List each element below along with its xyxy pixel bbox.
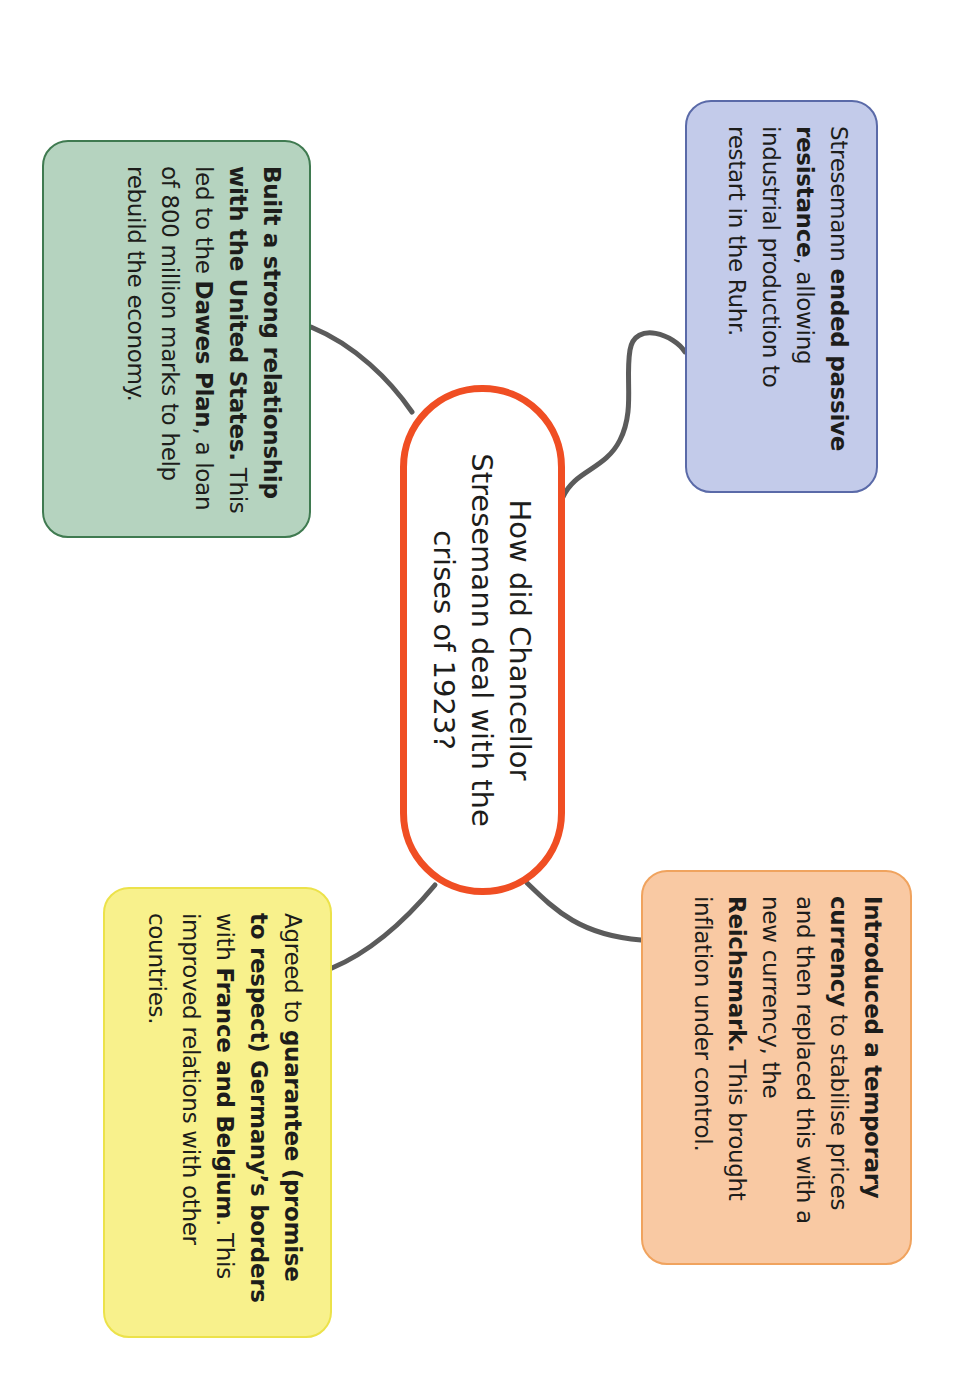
node-passive-resistance: Stresemann ended passive resistance, all… [685,100,878,493]
node-borders: Agreed to guarantee (promise to respect)… [103,887,332,1338]
text-segment-bold: Built a strong relationship with the Uni… [225,166,285,499]
central-question-text: How did Chancellor Stresemann deal with … [426,453,540,827]
node-united-states: Built a strong relationship with the Uni… [42,140,311,538]
text-segment-bold: France and Belgium [212,968,238,1219]
central-line-1: How did Chancellor [502,453,540,827]
text-segment-bold: Dawes Plan [191,281,217,428]
node-currency: Introduced a temporary currency to stabi… [641,870,912,1265]
connector-borders [332,885,435,968]
connector-united-states [311,327,412,412]
connector-currency [527,883,641,940]
connector-passive-resistance [563,333,685,497]
mind-map-canvas: How did Chancellor Stresemann deal with … [0,0,975,1399]
central-line-2: Stresemann deal with the [464,453,502,827]
central-line-3: crises of 1923? [426,453,464,827]
text-segment-bold: Reichsmark. [724,896,750,1052]
text-segment: Stresemann [826,126,852,269]
text-segment: with [212,913,238,968]
text-segment: Agreed to [280,913,306,1030]
central-question-node: How did Chancellor Stresemann deal with … [400,385,565,895]
